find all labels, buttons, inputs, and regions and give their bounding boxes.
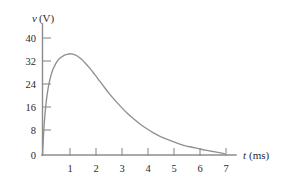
y-axis-label: v(V) <box>32 12 54 25</box>
y-axis-tick-labels: 40 32 24 16 8 0 <box>26 33 37 161</box>
x-tick-label-6: 6 <box>197 163 202 174</box>
y-axis-label-unit: (V) <box>39 12 55 25</box>
y-tick-label-8: 8 <box>31 125 36 136</box>
x-axis-label-unit: (ms) <box>249 149 270 162</box>
x-tick-label-7: 7 <box>223 163 228 174</box>
x-axis-tick-labels: 1 2 3 4 5 6 7 <box>67 163 228 174</box>
y-tick-label-0: 0 <box>31 150 36 161</box>
chart-figure: 40 32 24 16 8 0 1 2 3 4 5 6 7 v(V) t(ms) <box>0 0 289 184</box>
voltage-curve <box>43 54 225 155</box>
y-axis-label-symbol: v <box>32 12 37 24</box>
y-tick-label-24: 24 <box>26 79 37 90</box>
x-tick-label-3: 3 <box>119 163 124 174</box>
x-tick-label-2: 2 <box>93 163 98 174</box>
voltage-waveform-chart: 40 32 24 16 8 0 1 2 3 4 5 6 7 v(V) t(ms) <box>0 0 289 184</box>
x-tick-label-1: 1 <box>67 163 72 174</box>
y-tick-label-32: 32 <box>26 56 37 67</box>
x-tick-label-4: 4 <box>145 163 151 174</box>
x-axis-label-symbol: t <box>243 149 247 161</box>
y-tick-label-16: 16 <box>26 102 37 113</box>
x-tick-label-5: 5 <box>171 163 176 174</box>
y-tick-label-40: 40 <box>26 33 37 44</box>
x-axis-label: t(ms) <box>243 149 270 162</box>
